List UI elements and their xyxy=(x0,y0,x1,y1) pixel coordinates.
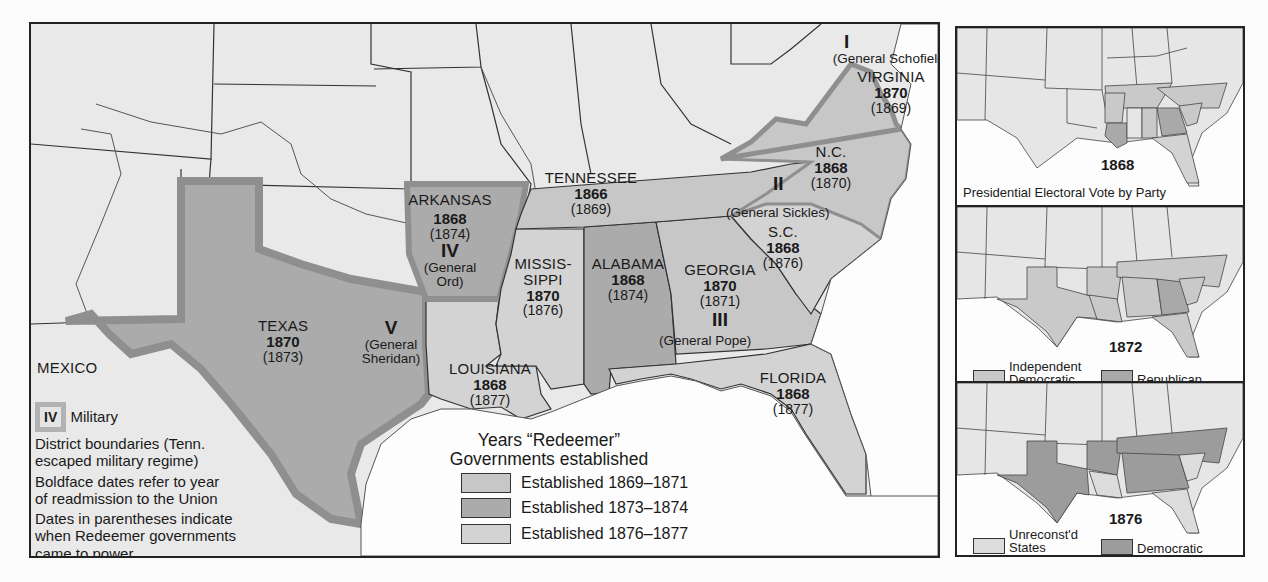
legend-item-1876-1877: Established 1876–1877 xyxy=(461,524,688,544)
state-label-tennessee: TENNESSEE 1866 (1869) xyxy=(531,170,651,216)
country-label-mexico: MEXICO xyxy=(37,360,97,376)
district-v-label: V (General Sheridan) xyxy=(346,318,436,366)
legend-swatch xyxy=(461,473,511,493)
district-ii-general: (General Sickles) xyxy=(726,206,830,220)
legend-swatch xyxy=(973,538,1005,554)
state-label-virginia: VIRGINIA 1870 (1869) xyxy=(841,69,940,115)
state-label-arkansas: ARKANSAS 1868 (1874) IV (General Ord) xyxy=(400,192,500,289)
state-label-louisiana: LOUISIANA 1868 (1877) xyxy=(435,361,545,407)
state-label-mississippi: MISSIS- SIPPI 1870 (1876) xyxy=(503,256,583,318)
inset-1868: 1868 Presidential Electoral Vote by Part… xyxy=(957,28,1243,205)
state-label-alabama: ALABAMA 1868 (1874) xyxy=(583,256,673,302)
district-iii-general: (General Pope) xyxy=(659,334,751,348)
legend-swatch xyxy=(1101,539,1133,555)
inset-caption: Presidential Electoral Vote by Party xyxy=(963,185,1166,200)
district-boundary-sample: IV xyxy=(35,402,66,432)
district-ii-label: II xyxy=(773,174,784,194)
inset-1876: 1876 Unreconst'dStates Democratic xyxy=(957,381,1243,557)
inset-1872: 1872 IndependentDemocratic Republican xyxy=(957,205,1243,383)
reconstruction-main-map: I (General Schofield) VIRGINIA 1870 (186… xyxy=(29,22,940,558)
district-i-general: (General Schofield) xyxy=(821,52,940,66)
state-label-texas: TEXAS 1870 (1873) xyxy=(248,318,318,364)
inset-year-1872: 1872 xyxy=(1109,338,1142,355)
district-i-label: I xyxy=(844,32,849,52)
state-label-florida: FLORIDA 1868 (1877) xyxy=(743,370,843,416)
inset-year-1868: 1868 xyxy=(1101,156,1134,173)
map-notes: IV Military District boundaries (Tenn. e… xyxy=(35,402,236,558)
legend-swatch xyxy=(461,498,511,518)
state-label-georgia: GEORGIA 1870 (1871) III xyxy=(675,262,765,330)
legend-item-1873-1874: Established 1873–1874 xyxy=(461,498,688,518)
inset-legend-independent-democratic: IndependentDemocratic xyxy=(973,360,1081,383)
state-label-north-carolina: N.C. 1868 (1870) xyxy=(791,144,871,190)
legend-item-1869-1871: Established 1869–1871 xyxy=(461,473,688,493)
inset-legend-democratic: Democratic xyxy=(1101,539,1203,555)
electoral-vote-insets: 1868 Presidential Electoral Vote by Part… xyxy=(955,26,1245,557)
legend-swatch xyxy=(461,524,511,544)
legend-title: Years “Redeemer” Governments established xyxy=(429,431,669,469)
inset-year-1876: 1876 xyxy=(1109,510,1142,527)
inset-legend-unreconstructed: Unreconst'dStates xyxy=(973,528,1078,554)
